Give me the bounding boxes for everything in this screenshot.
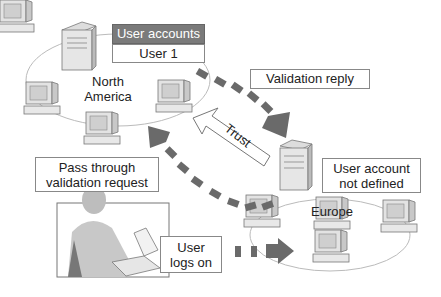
- validation-reply-label: Validation reply: [250, 69, 370, 89]
- workstation-icon: [0, 0, 34, 32]
- north-america-label: North America: [78, 74, 138, 104]
- user-account-not-defined-label: User account not defined: [322, 158, 421, 193]
- europe-label: Europe: [302, 204, 362, 219]
- user-accounts-header: User accounts: [112, 24, 205, 44]
- user-logs-on-label: User logs on: [160, 236, 222, 273]
- server-icon: [62, 22, 96, 70]
- server-icon: [280, 140, 312, 190]
- trust-diagram: User accounts User 1 North America Valid…: [0, 0, 441, 297]
- pass-through-label: Pass through validation request: [35, 157, 159, 192]
- user-photo: [57, 186, 169, 277]
- user-accounts-row: User 1: [112, 44, 205, 63]
- user-logs-on-arrow: [235, 238, 294, 264]
